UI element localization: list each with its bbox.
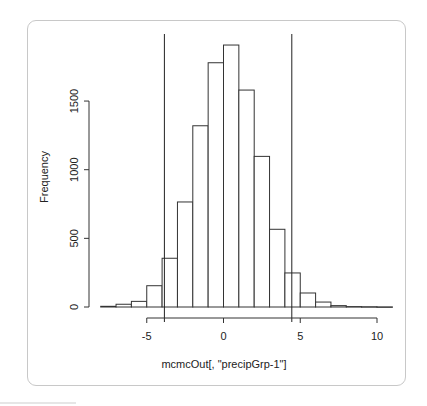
y-axis: 050010001500: [68, 89, 89, 310]
histogram-bar: [377, 307, 392, 308]
x-tick-label: 5: [297, 330, 303, 342]
x-tick-label: 0: [220, 330, 226, 342]
y-axis-label: Frequency: [38, 151, 50, 203]
histogram-bar: [254, 156, 269, 307]
decorative-strip: [0, 402, 76, 404]
histogram-bar: [224, 45, 239, 307]
histogram-bar: [285, 273, 300, 307]
histogram-bar: [316, 302, 331, 307]
histogram-bar: [270, 229, 285, 307]
y-tick-label: 0: [68, 304, 80, 310]
histogram-bar: [193, 126, 208, 307]
y-tick-label: 500: [68, 229, 80, 247]
histogram-bar: [239, 90, 254, 307]
x-axis: -50510: [142, 318, 383, 342]
x-axis-label: mcmcOut[, "precipGrp-1"]: [161, 358, 286, 370]
x-tick-label: -5: [142, 330, 152, 342]
histogram-bars: [101, 45, 393, 307]
histogram-bar: [331, 306, 346, 307]
y-tick-label: 1500: [68, 89, 80, 113]
histogram-bar: [101, 306, 116, 307]
histogram-bar: [131, 301, 146, 307]
histogram-bar: [208, 63, 223, 307]
histogram-bar: [147, 286, 162, 307]
histogram-chart: -50510 050010001500 mcmcOut[, "precipGrp…: [0, 0, 427, 406]
histogram-bar: [177, 202, 192, 307]
histogram-bar: [362, 307, 377, 308]
y-tick-label: 1000: [68, 157, 80, 181]
histogram-bar: [116, 304, 131, 307]
histogram-bar: [346, 307, 361, 308]
histogram-bar: [300, 293, 315, 307]
x-tick-label: 10: [371, 330, 383, 342]
